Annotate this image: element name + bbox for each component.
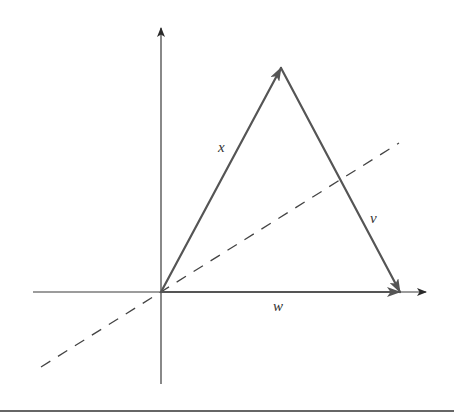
label-x: x	[217, 139, 225, 155]
vector-x	[161, 68, 281, 292]
vector-v	[281, 68, 400, 292]
label-v: v	[370, 210, 377, 226]
label-w: w	[273, 298, 283, 314]
vector-diagram: x v w	[0, 0, 454, 415]
dashed-line	[41, 143, 399, 367]
